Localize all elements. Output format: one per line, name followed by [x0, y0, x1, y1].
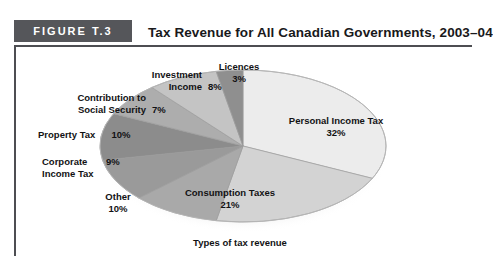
- slice-label-property-tax-pct: 10%: [101, 129, 130, 141]
- slice-label-corporate-income-tax: Corporate Income Tax 9%: [42, 156, 120, 179]
- slice-label-corporate-income-tax-pct: 9%: [106, 156, 120, 168]
- slice-label-other: Other 10%: [96, 191, 140, 214]
- slice-label-investment-income-name2: Income: [169, 81, 202, 92]
- slice-label-corporate-income-tax-name2: Income Tax: [42, 168, 94, 179]
- slice-label-social-security-name2: Social Security: [78, 104, 146, 115]
- slice-label-personal-income-tax: Personal Income Tax 32%: [272, 115, 400, 138]
- chart-caption: Types of tax revenue: [0, 237, 480, 248]
- slice-label-consumption-taxes-name: Consumption Taxes: [171, 187, 289, 199]
- slice-label-licences-pct: 3%: [232, 73, 246, 84]
- slice-label-other-name: Other: [96, 191, 140, 203]
- slice-label-consumption-taxes: Consumption Taxes 21%: [171, 187, 289, 210]
- pie-chart-area: Personal Income Tax 32%Consumption Taxes…: [16, 47, 472, 252]
- slice-label-social-security: Contribution to Social Security 7%: [62, 92, 166, 116]
- slice-label-corporate-income-tax-name1: Corporate: [42, 156, 87, 167]
- slice-label-property-tax: Property Tax 10%: [38, 129, 130, 141]
- slice-label-personal-income-tax-pct: 32%: [326, 127, 345, 138]
- slice-label-personal-income-tax-name: Personal Income Tax: [272, 115, 400, 127]
- figure-title: Tax Revenue for All Canadian Governments…: [148, 21, 493, 43]
- slice-label-investment-income-pct: 8%: [208, 69, 222, 93]
- slice-label-social-security-name1: Contribution to: [77, 92, 146, 103]
- figure-number-band: FIGURE T.3: [14, 20, 132, 42]
- slice-label-investment-income-name1: Investment: [152, 69, 202, 80]
- slice-label-investment-income: Investment Income 8%: [138, 69, 222, 93]
- figure-number-label: FIGURE T.3: [33, 25, 112, 37]
- slice-label-social-security-pct: 7%: [152, 92, 166, 116]
- slice-label-consumption-taxes-pct: 21%: [220, 199, 239, 210]
- slice-label-other-pct: 10%: [108, 203, 127, 214]
- slice-label-property-tax-name: Property Tax: [38, 129, 95, 141]
